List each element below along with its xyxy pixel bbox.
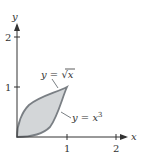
leader-sqrt [52,79,58,88]
shaded-region [17,87,67,137]
x-axis-arrow-icon [120,134,128,140]
tick-label-x1: 1 [64,143,70,154]
y-axis-arrow-icon [14,23,20,31]
tick-label-y1: 1 [5,82,11,93]
tick-label-x2: 2 [113,143,119,154]
leader-cube [61,112,71,118]
x-axis-label: x [131,131,137,142]
tick-label-y2: 2 [5,32,11,43]
y-axis-label: y [11,11,18,22]
curve-label-cube: y = x3 [71,111,103,123]
area-diagram: 1 2 1 2 x y y = √x y = x3 [0,0,145,163]
curve-label-sqrt: y = √x [40,69,74,80]
